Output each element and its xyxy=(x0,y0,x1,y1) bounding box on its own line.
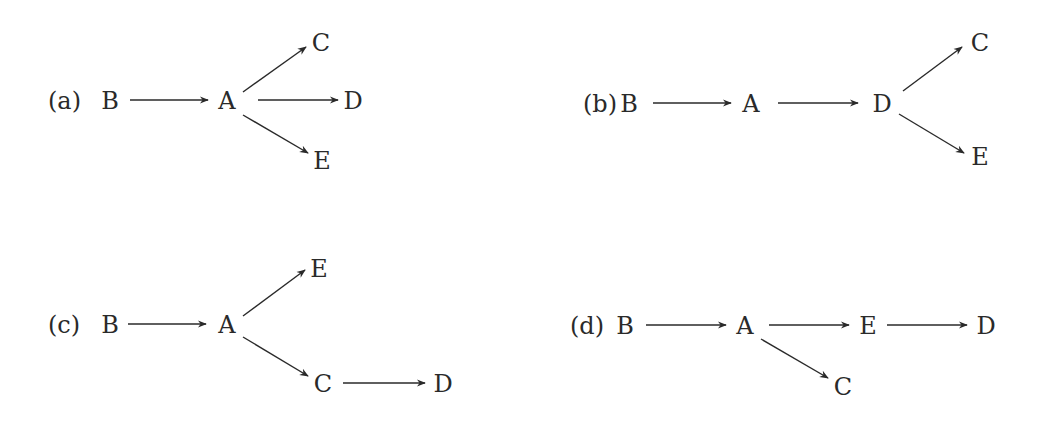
node-d-E: E xyxy=(859,314,877,338)
node-d-B: B xyxy=(616,314,634,338)
node-a-E: E xyxy=(313,149,331,173)
arrow-a-A-to-C xyxy=(243,47,306,92)
node-c-B: B xyxy=(101,313,119,337)
node-d-C: C xyxy=(834,375,852,399)
panel-label-a: (a) xyxy=(48,89,81,113)
node-b-C: C xyxy=(971,31,989,55)
edges-layer xyxy=(0,0,1044,425)
arrow-b-D-to-E xyxy=(899,114,964,153)
node-d-D: D xyxy=(976,314,995,338)
node-c-C: C xyxy=(314,372,332,396)
node-c-E: E xyxy=(310,257,328,281)
panel-label-d: (d) xyxy=(570,314,604,338)
node-a-D: D xyxy=(343,89,362,113)
node-b-E: E xyxy=(971,145,989,169)
node-b-A: A xyxy=(742,92,759,116)
panel-label-c: (c) xyxy=(48,313,80,337)
node-c-D: D xyxy=(433,372,452,396)
node-a-C: C xyxy=(312,31,330,55)
node-c-A: A xyxy=(218,313,235,337)
node-d-A: A xyxy=(736,314,753,338)
arrow-b-D-to-C xyxy=(903,47,962,91)
node-a-A: A xyxy=(218,89,235,113)
arrow-a-A-to-E xyxy=(243,115,308,153)
node-b-D: D xyxy=(872,92,891,116)
arrow-c-A-to-C xyxy=(243,337,308,376)
panel-label-b: (b) xyxy=(583,92,617,116)
diagram-canvas: (a) B A C D E (b) B A D C E (c) B A E C … xyxy=(0,0,1044,425)
node-b-B: B xyxy=(620,92,638,116)
arrow-d-A-to-C xyxy=(761,339,828,378)
arrow-c-A-to-E xyxy=(243,270,305,316)
node-a-B: B xyxy=(101,89,119,113)
